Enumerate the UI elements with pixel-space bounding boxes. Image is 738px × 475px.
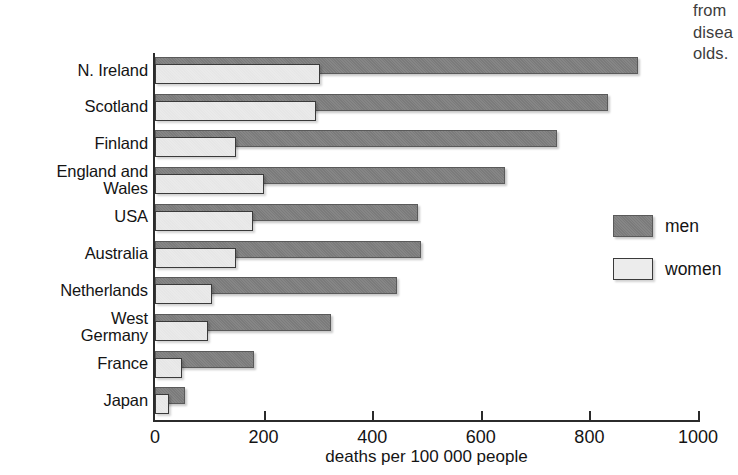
y-axis-category-labels: N. IrelandScotlandFinlandEngland andWale… bbox=[0, 53, 148, 420]
category-label: Netherlands bbox=[0, 282, 148, 300]
legend-swatch-men bbox=[613, 215, 653, 237]
category-label-line: USA bbox=[0, 208, 148, 226]
bar-women bbox=[155, 64, 320, 84]
category-label-line: Germany bbox=[0, 327, 148, 344]
x-axis-tick-label: 200 bbox=[249, 427, 279, 448]
x-axis-tick-label: 800 bbox=[574, 427, 604, 448]
category-label-line: Australia bbox=[0, 245, 148, 263]
legend-label-women: women bbox=[665, 258, 721, 280]
x-axis-tick bbox=[589, 411, 591, 422]
bar-women bbox=[155, 248, 236, 268]
bar-women bbox=[155, 137, 236, 157]
x-axis-tick bbox=[481, 411, 483, 422]
x-axis-tick-label: 600 bbox=[466, 427, 496, 448]
x-axis-tick bbox=[698, 411, 700, 422]
caption-line-1: from bbox=[693, 0, 738, 22]
category-label: N. Ireland bbox=[0, 62, 148, 80]
category-label-line: Scotland bbox=[0, 98, 148, 116]
x-axis-tick bbox=[264, 411, 266, 422]
caption-line-2: disea bbox=[693, 22, 738, 44]
category-label-line: Japan bbox=[0, 392, 148, 410]
bar-women bbox=[155, 321, 208, 341]
x-axis-tick-label: 1000 bbox=[678, 427, 718, 448]
category-label-line: Finland bbox=[0, 135, 148, 153]
category-label-line: West bbox=[0, 310, 148, 327]
category-label-line: Netherlands bbox=[0, 282, 148, 300]
x-axis-tick bbox=[372, 411, 374, 422]
bar-women bbox=[155, 211, 253, 231]
x-axis-tick-label: 400 bbox=[357, 427, 387, 448]
bar-women bbox=[155, 284, 212, 304]
category-label: England andWales bbox=[0, 163, 148, 197]
category-label: Australia bbox=[0, 245, 148, 263]
category-label: Scotland bbox=[0, 98, 148, 116]
bar-women bbox=[155, 101, 316, 121]
legend-label-men: men bbox=[665, 215, 699, 237]
category-label: Japan bbox=[0, 392, 148, 410]
category-label-line: England and bbox=[0, 163, 148, 180]
bar-women bbox=[155, 174, 264, 194]
category-label: Finland bbox=[0, 135, 148, 153]
category-label: WestGermany bbox=[0, 310, 148, 344]
caption-line-3: olds. bbox=[693, 43, 738, 65]
category-label: USA bbox=[0, 208, 148, 226]
category-label-line: N. Ireland bbox=[0, 62, 148, 80]
bar-women bbox=[155, 358, 182, 378]
category-label-line: France bbox=[0, 355, 148, 373]
x-axis-title: deaths per 100 000 people bbox=[155, 447, 698, 467]
bar-women bbox=[155, 394, 169, 414]
category-label: France bbox=[0, 355, 148, 373]
x-axis-tick-label: 0 bbox=[150, 427, 160, 448]
category-label-line: Wales bbox=[0, 180, 148, 197]
caption-text-fragment: from disea olds. bbox=[693, 0, 738, 65]
legend-swatch-women bbox=[613, 258, 653, 280]
x-axis-line bbox=[153, 420, 698, 422]
